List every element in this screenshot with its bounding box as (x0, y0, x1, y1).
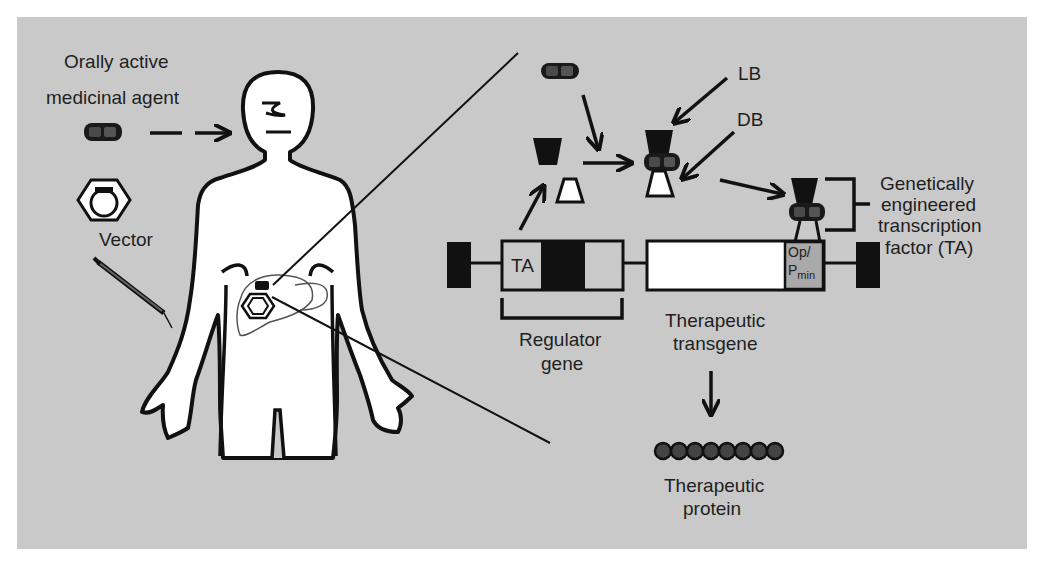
transgene-label-1: Therapeutic (665, 309, 765, 332)
pill-icon-right (541, 63, 579, 79)
ligand-binding-domain-icon (533, 138, 562, 165)
protein-label-1: Therapeutic (664, 474, 764, 497)
assembled-transcription-factor-icon (644, 130, 680, 196)
orally-active-label-2: medicinal agent (46, 86, 179, 109)
syringe-icon (94, 258, 172, 328)
pill-icon (84, 123, 122, 141)
orally-active-label-1: Orally active (64, 50, 169, 73)
op-label: Op/ (788, 244, 811, 260)
right-end-block (856, 242, 880, 288)
dna-binding-domain-icon (557, 179, 583, 202)
regulator-gene-label-1: Regulator (519, 328, 601, 351)
ta-factor-label-1: Genetically (880, 172, 974, 195)
liver-vector-icon (242, 294, 274, 318)
vector-icon (78, 180, 130, 220)
regulator-gene-label-2: gene (541, 352, 583, 375)
lb-label: LB (738, 62, 761, 85)
pmin-label: Pmin (788, 262, 815, 283)
bound-transcription-factor-icon (789, 178, 825, 242)
human-figure (142, 72, 412, 458)
regulator-gene-black-segment (541, 242, 585, 289)
ta-factor-label-2: engineered (881, 193, 976, 216)
vector-label: Vector (99, 228, 153, 251)
ta-bracket (825, 179, 870, 230)
regulator-bracket (502, 298, 622, 318)
left-end-block (447, 242, 471, 288)
db-label: DB (737, 108, 763, 131)
ta-factor-label-3: transcription (878, 214, 982, 237)
liver-pill-icon (255, 281, 269, 290)
body-leg-gap (272, 410, 284, 458)
ta-factor-label-4: factor (TA) (885, 236, 973, 259)
ta-box-label: TA (511, 254, 534, 277)
protein-chain-icon (655, 443, 783, 459)
transgene-label-2: transgene (673, 332, 758, 355)
protein-label-2: protein (683, 497, 741, 520)
